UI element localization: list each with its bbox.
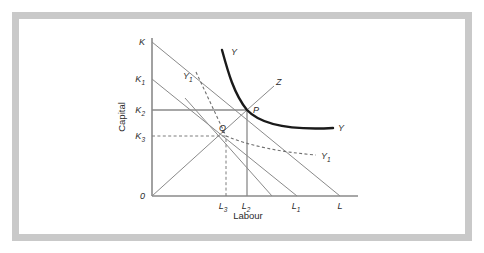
isocost-line-K1-L1: [152, 79, 297, 196]
isoquant-curve-YY: [222, 50, 333, 128]
x-tick-label-L1: L1: [292, 201, 301, 213]
expansion-path-label-Z: Z: [275, 77, 282, 87]
x-tick-label-L: L: [337, 201, 342, 211]
isoquant-label-Y-upper: Y: [231, 47, 238, 57]
figure-root: Capital Labour K K1 K2 K3 0 L3 L2 L1 L Y…: [0, 0, 484, 253]
isoquant-label-Y1-upper: Y1: [183, 71, 193, 83]
point-label-P: P: [253, 105, 259, 115]
x-tick-label-L2: L2: [242, 201, 251, 213]
y-tick-labels-group: K K1 K2 K3 0: [135, 37, 146, 201]
y-axis-title: Capital: [116, 102, 127, 132]
point-label-Q: Q: [219, 123, 226, 133]
y-tick-label-K1: K1: [135, 74, 145, 86]
dashed-guides-group: [152, 136, 226, 196]
y-tick-label-K2: K2: [135, 105, 145, 117]
rays-group: [152, 86, 274, 196]
curve-labels-group: Y Y Y1 Y1 Z: [183, 47, 345, 163]
origin-label: 0: [140, 191, 145, 201]
economics-diagram: Capital Labour K K1 K2 K3 0 L3 L2 L1 L Y…: [0, 0, 484, 253]
expansion-path-ray-Z: [247, 86, 274, 110]
y-tick-label-K: K: [139, 37, 146, 47]
isoquant-label-Y-lower: Y: [338, 123, 345, 133]
expansion-path-ray-origin: [152, 110, 247, 196]
isocost-lines-group: [152, 42, 340, 196]
isoquant-label-Y1-lower: Y1: [321, 151, 331, 163]
isocost-line-K-L: [152, 42, 340, 196]
y-tick-label-K3: K3: [135, 131, 145, 143]
x-tick-label-L3: L3: [219, 201, 228, 213]
point-labels-group: P Q: [219, 105, 259, 133]
